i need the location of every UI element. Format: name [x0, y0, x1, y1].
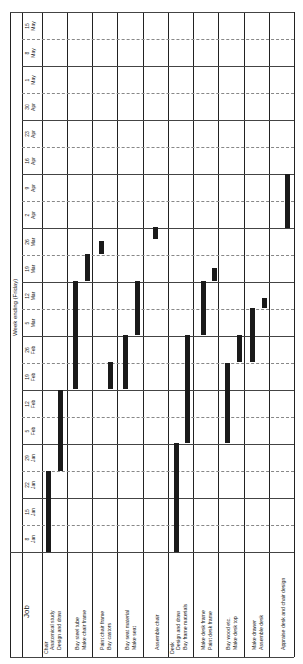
job-label: Make desk frame [200, 610, 206, 650]
grid-line-vertical [193, 12, 194, 657]
grid-line-horizontal [22, 39, 294, 40]
job-label: Paint chair frame [99, 611, 105, 650]
week-label: 8May [25, 42, 36, 64]
job-label: Anatomical study [49, 610, 55, 650]
task-bar [46, 471, 51, 552]
grid-line-horizontal [22, 255, 294, 256]
week-label: 15May [25, 15, 36, 37]
week-month: May [31, 15, 37, 37]
week-month: Mar [31, 285, 37, 307]
grid-line-vertical [294, 12, 295, 657]
week-month: Jan [31, 528, 37, 550]
grid-line-vertical [269, 12, 270, 657]
grid-line-vertical [67, 12, 68, 657]
week-label: 29Jan [25, 447, 36, 469]
task-bar [201, 281, 206, 335]
grid-line-vertical [218, 12, 219, 657]
week-month: Mar [31, 231, 37, 253]
grid-line-horizontal [22, 228, 294, 229]
week-month: Feb [31, 393, 37, 415]
week-month: Jan [31, 447, 37, 469]
task-bar [58, 390, 63, 471]
week-month: May [31, 69, 37, 91]
job-label: Make chair frame [81, 610, 87, 650]
grid-line-horizontal [22, 471, 294, 472]
grid-line-vertical [10, 12, 11, 657]
grid-line-vertical [117, 12, 118, 657]
week-month: Mar [31, 258, 37, 280]
job-label: Buy steel tube [74, 617, 80, 650]
task-bar [250, 308, 255, 362]
week-label: 2Apr [25, 204, 36, 226]
grid-line-horizontal [22, 498, 294, 499]
week-month: Feb [31, 420, 37, 442]
grid-line-vertical [244, 12, 245, 657]
task-bar [135, 281, 140, 335]
week-month: Mar [31, 312, 37, 334]
job-label: Design and draw [56, 611, 62, 650]
task-bar [123, 335, 128, 389]
week-month: Jan [31, 474, 37, 496]
week-month: Apr [31, 96, 37, 118]
week-label: 5Feb [25, 420, 36, 442]
grid-line-horizontal [22, 147, 294, 148]
job-label: Buy frame materials [182, 604, 188, 650]
job-label: Make desk top [232, 616, 238, 650]
grid-line-vertical [22, 12, 23, 657]
task-bar [85, 254, 90, 281]
week-label: 26Feb [25, 339, 36, 361]
grid-line-horizontal [10, 657, 294, 658]
week-label: 30Apr [25, 96, 36, 118]
task-bar [174, 443, 179, 552]
job-label: Make seat [131, 626, 137, 650]
week-month: Feb [31, 366, 37, 388]
week-month: Apr [31, 123, 37, 145]
week-month: Feb [31, 339, 37, 361]
grid-line-vertical [143, 12, 144, 657]
grid-line-horizontal [22, 363, 294, 364]
week-label: 19Feb [25, 366, 36, 388]
grid-line-horizontal [22, 174, 294, 175]
week-label: 8Jan [25, 528, 36, 550]
task-bar [99, 241, 104, 254]
grid-line-horizontal [10, 552, 294, 553]
grid-line-horizontal [22, 66, 294, 67]
week-label: 9Apr [25, 177, 36, 199]
job-label: Paint desk frame [207, 611, 213, 650]
task-bar [285, 174, 290, 228]
task-bar [212, 268, 217, 281]
task-bar [153, 227, 158, 239]
grid-line-horizontal [10, 12, 294, 13]
job-label: Assemble desk [258, 615, 264, 650]
task-bar [73, 281, 78, 389]
week-month: Apr [31, 177, 37, 199]
grid-line-horizontal [22, 525, 294, 526]
task-bar [185, 335, 190, 443]
job-label: Assemble chair [154, 615, 160, 650]
grid-line-horizontal [22, 120, 294, 121]
week-label: 22Jan [25, 474, 36, 496]
week-label: 5Mar [25, 312, 36, 334]
week-month: Jan [31, 501, 37, 523]
week-label: 26Mar [25, 231, 36, 253]
gantt-chart: 8Jan15Jan22Jan29Jan5Feb12Feb19Feb26Feb5M… [0, 0, 303, 664]
task-bar [262, 298, 267, 308]
week-label: 12Mar [25, 285, 36, 307]
job-label: Design and draw [175, 611, 181, 650]
grid-line-vertical [168, 12, 169, 657]
week-label: 15Jan [25, 501, 36, 523]
job-label: Buy castors [106, 623, 112, 650]
grid-line-horizontal [22, 201, 294, 202]
task-bar [225, 363, 230, 443]
week-label: 12Feb [25, 393, 36, 415]
week-label: 16Apr [25, 150, 36, 172]
grid-line-horizontal [22, 282, 294, 283]
week-label: 1May [25, 69, 36, 91]
task-bar [108, 362, 113, 389]
grid-line-horizontal [22, 93, 294, 94]
job-label: Make drawer [251, 620, 257, 650]
axis-title: Week ending (Friday) [12, 279, 18, 336]
week-month: Apr [31, 204, 37, 226]
job-label: Buy wood etc. [225, 617, 231, 650]
week-label: 19Mar [25, 258, 36, 280]
